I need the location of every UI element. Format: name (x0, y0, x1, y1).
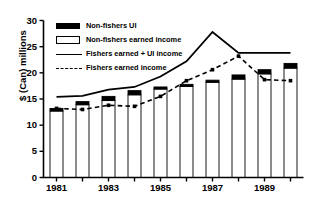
x-axis-tick-label: 1987 (196, 182, 230, 193)
bar-segment-earned-income (76, 105, 89, 178)
bar-segment-earned-income (154, 89, 167, 177)
chart-container: $ (Can) millions 051015202530 1981198319… (0, 0, 313, 211)
bar-segment-earned-income (258, 74, 271, 178)
bar-segment-ui (128, 91, 141, 95)
x-axis-tick-label: 1989 (248, 182, 282, 193)
bar-segment-earned-income (284, 68, 297, 177)
legend-swatch-solid-line-icon (56, 54, 82, 55)
data-point-marker (185, 79, 189, 83)
data-point-marker (237, 54, 241, 58)
legend-label: Non-fishers earned income (86, 35, 181, 44)
data-point-marker (133, 105, 137, 109)
bars-group (50, 63, 297, 177)
legend-swatch-filled-rect-icon (56, 23, 80, 29)
chart-plot-area (0, 0, 313, 211)
bar-segment-ui (154, 87, 167, 89)
data-point-marker (159, 95, 163, 99)
y-axis-tick-label: 30 (19, 15, 37, 26)
bar-segment-earned-income (232, 79, 245, 177)
y-axis-tick-label: 25 (19, 41, 37, 52)
legend-swatch-open-rect-icon (56, 36, 80, 44)
data-point-marker (263, 78, 267, 82)
legend-label: Fishers earned income (86, 63, 167, 72)
bar-segment-earned-income (180, 86, 193, 177)
bar-segment-ui (258, 70, 271, 74)
data-point-marker (211, 68, 215, 72)
bar-segment-ui (206, 80, 219, 82)
x-axis-tick-label: 1983 (92, 182, 126, 193)
bar-segment-ui (232, 75, 245, 79)
x-axis-tick-label: 1981 (40, 182, 74, 193)
legend-label: Fishers earned + UI income (86, 49, 182, 58)
bar-segment-earned-income (50, 111, 63, 177)
y-axis-tick-label: 0 (19, 172, 37, 183)
y-axis-tick-label: 10 (19, 119, 37, 130)
data-point-marker (55, 107, 59, 111)
bar-segment-earned-income (102, 101, 115, 178)
bar-segment-ui (76, 102, 89, 105)
legend-swatch-dashed-line-icon (56, 68, 82, 69)
bar-segment-ui (180, 84, 193, 86)
legend-label: Non-fishers UI (86, 21, 137, 30)
x-axis-tick-label: 1985 (144, 182, 178, 193)
data-point-marker (81, 108, 85, 112)
bar-segment-ui (284, 63, 297, 68)
y-axis-tick-label: 20 (19, 67, 37, 78)
bar-segment-ui (102, 96, 115, 100)
data-point-marker (289, 79, 293, 83)
y-axis-tick-label: 5 (19, 145, 37, 156)
data-point-marker (107, 103, 111, 107)
bar-segment-earned-income (206, 82, 219, 177)
y-axis-tick-label: 15 (19, 93, 37, 104)
